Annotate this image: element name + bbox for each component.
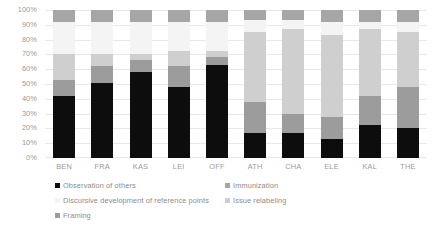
- bar-segment[interactable]: [244, 10, 266, 20]
- bar-slot: [121, 10, 159, 158]
- bar-stack-ben[interactable]: [53, 10, 75, 158]
- legend-item[interactable]: Immunization: [225, 182, 278, 189]
- x-axis: BENFRAKASLEIOFFATHCHAELEKALTHE: [45, 160, 427, 174]
- bar-segment[interactable]: [282, 20, 304, 29]
- bar-slot: [351, 10, 389, 158]
- bar-segment[interactable]: [53, 10, 75, 22]
- bar-segment[interactable]: [206, 57, 228, 64]
- bar-segment[interactable]: [321, 35, 343, 116]
- y-axis-tick-label: 90%: [22, 21, 37, 28]
- x-axis-tick-label: BEN: [45, 160, 83, 174]
- bar-segment[interactable]: [282, 133, 304, 158]
- bar-segment[interactable]: [130, 60, 152, 72]
- bar-segment[interactable]: [91, 10, 113, 22]
- bar-slot: [83, 10, 121, 158]
- bar-segment[interactable]: [397, 32, 419, 87]
- bar-segment[interactable]: [359, 22, 381, 29]
- chart-legend: Observation of othersDiscursive developm…: [55, 180, 435, 230]
- bar-segment[interactable]: [244, 102, 266, 133]
- bar-stack-ele[interactable]: [321, 10, 343, 158]
- bar-segment[interactable]: [53, 22, 75, 55]
- bar-segment[interactable]: [168, 87, 190, 158]
- legend-swatch-icon: [225, 198, 230, 203]
- bar-segment[interactable]: [206, 65, 228, 158]
- x-axis-tick-label: THE: [389, 160, 427, 174]
- bar-segment[interactable]: [53, 96, 75, 158]
- y-axis-tick-label: 10%: [22, 139, 37, 146]
- x-axis-tick-label: OFF: [198, 160, 236, 174]
- bar-slot: [389, 10, 427, 158]
- bar-segment[interactable]: [397, 87, 419, 128]
- bar-segment[interactable]: [321, 117, 343, 139]
- legend-label: Discursive development of reference poin…: [63, 197, 209, 204]
- bar-segment[interactable]: [397, 22, 419, 32]
- bar-segment[interactable]: [53, 54, 75, 79]
- y-axis-tick-label: 100%: [18, 6, 37, 13]
- bar-segment[interactable]: [244, 20, 266, 32]
- bar-segment[interactable]: [244, 133, 266, 158]
- bar-segment[interactable]: [282, 114, 304, 133]
- bar-slot: [312, 10, 350, 158]
- bar-stack-fra[interactable]: [91, 10, 113, 158]
- bar-segment[interactable]: [130, 10, 152, 22]
- y-axis: 0%10%20%30%40%50%60%70%80%90%100%: [0, 10, 41, 158]
- bar-segment[interactable]: [359, 96, 381, 126]
- bar-stack-the[interactable]: [397, 10, 419, 158]
- bar-segment[interactable]: [244, 32, 266, 102]
- x-axis-tick-label: ELE: [312, 160, 350, 174]
- bar-slot: [236, 10, 274, 158]
- bar-segment[interactable]: [168, 51, 190, 66]
- bar-series-container: [45, 10, 427, 158]
- y-axis-tick-label: 40%: [22, 95, 37, 102]
- legend-label: Framing: [63, 212, 91, 219]
- x-axis-tick-label: ATH: [236, 160, 274, 174]
- bar-segment[interactable]: [282, 10, 304, 20]
- y-axis-tick-label: 50%: [22, 80, 37, 87]
- bar-segment[interactable]: [282, 29, 304, 113]
- bar-segment[interactable]: [91, 83, 113, 158]
- bar-segment[interactable]: [321, 22, 343, 35]
- bar-segment[interactable]: [397, 128, 419, 158]
- bar-stack-lei[interactable]: [168, 10, 190, 158]
- legend-swatch-icon: [225, 183, 230, 188]
- bar-segment[interactable]: [168, 22, 190, 52]
- bar-segment[interactable]: [359, 29, 381, 96]
- bar-segment[interactable]: [130, 72, 152, 158]
- stacked-bar-chart: 0%10%20%30%40%50%60%70%80%90%100% BENFRA…: [0, 0, 441, 236]
- bar-segment[interactable]: [91, 66, 113, 82]
- bar-segment[interactable]: [168, 66, 190, 87]
- bar-stack-kas[interactable]: [130, 10, 152, 158]
- bar-slot: [274, 10, 312, 158]
- bar-segment[interactable]: [91, 22, 113, 55]
- bar-segment[interactable]: [397, 10, 419, 22]
- x-axis-tick-label: FRA: [83, 160, 121, 174]
- legend-item[interactable]: Issue relabeling: [225, 197, 286, 204]
- bar-segment[interactable]: [206, 22, 228, 52]
- bar-slot: [198, 10, 236, 158]
- x-axis-tick-label: CHA: [274, 160, 312, 174]
- bar-slot: [45, 10, 83, 158]
- bar-segment[interactable]: [168, 10, 190, 22]
- legend-item[interactable]: Observation of others: [55, 182, 136, 189]
- bar-stack-kal[interactable]: [359, 10, 381, 158]
- x-axis-tick-label: LEI: [160, 160, 198, 174]
- bar-stack-ath[interactable]: [244, 10, 266, 158]
- bar-segment[interactable]: [91, 54, 113, 66]
- bar-segment[interactable]: [359, 125, 381, 158]
- legend-swatch-icon: [55, 198, 60, 203]
- bar-segment[interactable]: [130, 22, 152, 55]
- bar-slot: [160, 10, 198, 158]
- bar-segment[interactable]: [321, 139, 343, 158]
- bar-segment[interactable]: [206, 10, 228, 22]
- y-axis-tick-label: 30%: [22, 110, 37, 117]
- legend-item[interactable]: Framing: [55, 212, 91, 219]
- legend-label: Observation of others: [63, 182, 136, 189]
- y-axis-tick-label: 0%: [26, 154, 37, 161]
- bar-segment[interactable]: [53, 80, 75, 96]
- bar-segment[interactable]: [359, 10, 381, 22]
- bar-stack-off[interactable]: [206, 10, 228, 158]
- bar-segment[interactable]: [321, 10, 343, 22]
- x-axis-tick-label: KAS: [121, 160, 159, 174]
- bar-stack-cha[interactable]: [282, 10, 304, 158]
- legend-item[interactable]: Discursive development of reference poin…: [55, 197, 209, 204]
